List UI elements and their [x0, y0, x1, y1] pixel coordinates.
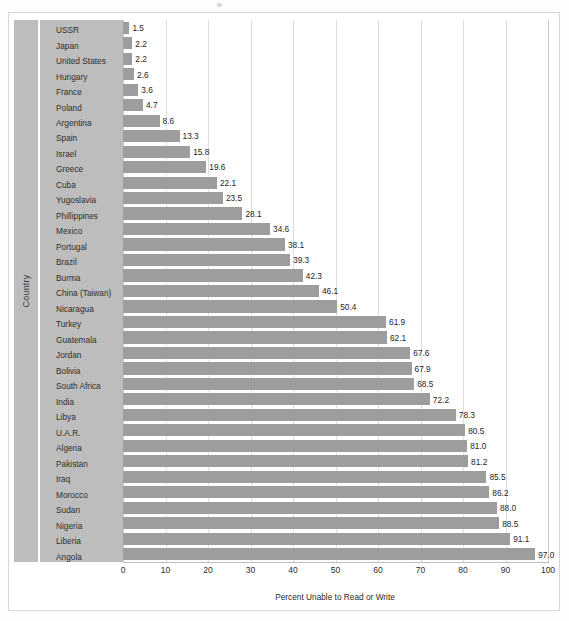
bar — [123, 53, 132, 65]
bar-value-label: 68.5 — [417, 380, 433, 388]
category-label: Greece — [40, 165, 116, 173]
category-label: Nigeria — [40, 522, 116, 530]
bar-value-label: 61.9 — [389, 318, 405, 326]
bar-value-label: 80.5 — [468, 427, 484, 435]
bar-value-label: 88.5 — [502, 520, 518, 528]
category-label: Morocco — [40, 491, 116, 499]
bar-value-label: 38.1 — [288, 241, 304, 249]
bar-value-label: 86.2 — [492, 489, 508, 497]
bar-value-label: 62.1 — [390, 334, 406, 342]
bar-value-label: 88.0 — [500, 504, 516, 512]
category-label: Cuba — [40, 181, 116, 189]
category-label: India — [40, 398, 116, 406]
bar — [123, 424, 465, 436]
bar-value-label: 15.8 — [193, 148, 209, 156]
bar-value-label: 85.5 — [489, 473, 505, 481]
bar-value-label: 3.6 — [141, 86, 153, 94]
bar-value-label: 1.5 — [132, 24, 144, 32]
category-label: Portugal — [40, 243, 116, 251]
category-label: Algeria — [40, 444, 116, 452]
bar-value-label: 19.6 — [209, 163, 225, 171]
category-label: Bolivia — [40, 367, 116, 375]
category-label-panel: USSRJapanUnited StatesHungaryFrancePolan… — [40, 20, 123, 562]
bar — [123, 22, 129, 34]
bar — [123, 161, 206, 173]
category-label: Nicaragua — [40, 305, 116, 313]
bar — [123, 316, 386, 328]
category-label: Argentina — [40, 119, 116, 127]
bar — [123, 347, 410, 359]
category-label: U.A.R. — [40, 429, 116, 437]
bar-value-label: 2.6 — [137, 71, 149, 79]
bar-value-label: 42.3 — [306, 272, 322, 280]
category-label: Phillippines — [40, 212, 116, 220]
x-tick-label: 40 — [288, 566, 297, 575]
bar — [123, 37, 132, 49]
bar-value-label: 46.1 — [322, 287, 338, 295]
category-label: Guatemala — [40, 336, 116, 344]
x-tick-label: 30 — [246, 566, 255, 575]
bar — [123, 130, 180, 142]
bar — [123, 238, 285, 250]
bar — [123, 68, 134, 80]
bar — [123, 285, 319, 297]
scan-artifact-speck — [217, 3, 222, 7]
x-tick-label: 80 — [458, 566, 467, 575]
bar — [123, 533, 510, 545]
x-tick-label: 70 — [416, 566, 425, 575]
bar-value-label: 97.0 — [538, 551, 554, 559]
category-label: USSR — [40, 26, 116, 34]
category-label: Burma — [40, 274, 116, 282]
bar-value-label: 28.1 — [245, 210, 261, 218]
bar — [123, 269, 303, 281]
category-label: Angola — [40, 553, 116, 561]
bar-value-label: 39.3 — [293, 256, 309, 264]
x-tick-label: 10 — [161, 566, 170, 575]
category-label-list: USSRJapanUnited StatesHungaryFrancePolan… — [40, 22, 123, 562]
bar-value-label: 81.0 — [470, 442, 486, 450]
category-label: Pakistan — [40, 460, 116, 468]
category-label: Sudan — [40, 506, 116, 514]
bar-value-label: 22.1 — [220, 179, 236, 187]
bar — [123, 99, 143, 111]
x-tick-label: 50 — [331, 566, 340, 575]
x-axis-line — [123, 562, 549, 563]
bar — [123, 115, 160, 127]
bar-value-label: 13.3 — [183, 132, 199, 140]
bar — [123, 254, 290, 266]
category-label: Israel — [40, 150, 116, 158]
bar-value-label: 72.2 — [433, 396, 449, 404]
bar — [123, 409, 456, 421]
plot-area: 1.52.22.22.63.64.78.613.315.819.622.123.… — [123, 20, 548, 562]
x-tick-label: 90 — [501, 566, 510, 575]
x-axis-title: Percent Unable to Read or Write — [275, 592, 395, 602]
category-label: China (Taiwan) — [40, 289, 116, 297]
bar-value-label: 4.7 — [146, 101, 158, 109]
category-label: Iraq — [40, 475, 116, 483]
bar-value-label: 91.1 — [513, 535, 529, 543]
category-label: Japan — [40, 42, 116, 50]
category-label: South Africa — [40, 382, 116, 390]
category-label: Mexico — [40, 227, 116, 235]
category-label: Brazil — [40, 258, 116, 266]
bar — [123, 548, 535, 560]
bar — [123, 84, 138, 96]
category-label: Spain — [40, 134, 116, 142]
bar — [123, 300, 337, 312]
bar — [123, 362, 412, 374]
category-label: Hungary — [40, 73, 116, 81]
y-axis-title: Country — [14, 20, 38, 562]
bar-value-label: 81.2 — [471, 458, 487, 466]
bar-value-label: 2.2 — [135, 55, 147, 63]
category-label: United States — [40, 57, 116, 65]
bar — [123, 440, 467, 452]
bar-value-label: 78.3 — [459, 411, 475, 419]
category-label: Liberia — [40, 537, 116, 545]
x-tick-label: 100 — [541, 566, 555, 575]
x-tick-label: 0 — [121, 566, 126, 575]
bar — [123, 331, 387, 343]
gridline — [548, 20, 549, 562]
category-label: Libya — [40, 413, 116, 421]
bar — [123, 471, 486, 483]
bar-value-label: 67.9 — [415, 365, 431, 373]
